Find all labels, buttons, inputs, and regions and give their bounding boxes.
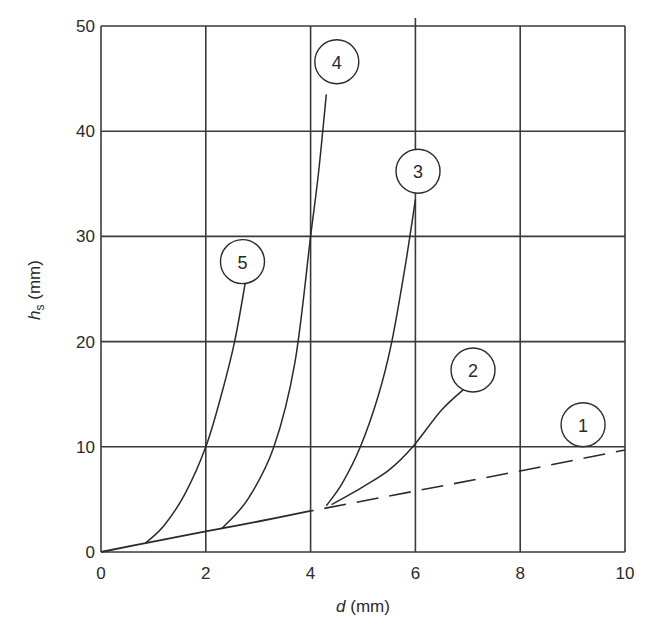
x-tick-label: 8 <box>515 564 524 583</box>
marker-label: 1 <box>578 416 588 436</box>
x-tick-label: 0 <box>96 564 105 583</box>
grid <box>101 18 625 552</box>
chart: 12345 01020304050 0246810 d (mm) hs (mm) <box>0 0 651 643</box>
series-lines <box>101 94 625 552</box>
y-tick-label: 20 <box>76 333 95 352</box>
series-5 <box>146 284 246 543</box>
curve-label-1: 1 <box>561 403 605 447</box>
x-tick-label: 10 <box>616 564 635 583</box>
y-axis-label: hs (mm) <box>25 260 47 320</box>
y-tick-label: 40 <box>76 122 95 141</box>
series-2 <box>332 386 468 505</box>
curve-label-4: 4 <box>315 40 359 84</box>
curve-markers: 12345 <box>220 40 605 447</box>
x-tick-label: 6 <box>411 564 420 583</box>
series-1-dashed <box>311 450 625 511</box>
x-axis-label: d (mm) <box>336 597 390 616</box>
y-tick-labels: 01020304050 <box>76 17 95 562</box>
curve-label-5: 5 <box>220 240 264 284</box>
series-3 <box>326 200 415 506</box>
marker-label: 3 <box>413 162 423 182</box>
y-tick-label: 30 <box>76 227 95 246</box>
x-tick-labels: 0246810 <box>96 564 634 583</box>
marker-label: 2 <box>468 361 478 381</box>
y-tick-label: 0 <box>86 543 95 562</box>
y-tick-label: 50 <box>76 17 95 36</box>
y-tick-label: 10 <box>76 438 95 457</box>
curve-label-3: 3 <box>396 149 440 193</box>
marker-label: 4 <box>332 53 342 73</box>
x-tick-label: 2 <box>201 564 210 583</box>
x-tick-label: 4 <box>306 564 315 583</box>
curve-label-2: 2 <box>451 348 495 392</box>
marker-label: 5 <box>237 253 247 273</box>
